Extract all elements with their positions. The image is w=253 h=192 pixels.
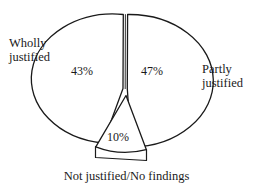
pie-chart-graphic xyxy=(0,0,253,192)
slice-label-not-justified: Not justified/No findings xyxy=(0,170,253,184)
slice-value-wholly-justified: 43% xyxy=(71,64,93,79)
slice-label-wholly-justified: Wholly justified xyxy=(9,37,50,64)
slice-label-partly-justified: Partly justified xyxy=(202,63,243,90)
pie-chart-figure: Wholly justified Partly justified Not ju… xyxy=(0,0,253,192)
slice-value-not-justified: 10% xyxy=(107,130,129,145)
slice-value-partly-justified: 47% xyxy=(141,64,163,79)
partly-justified-slice xyxy=(127,14,213,147)
